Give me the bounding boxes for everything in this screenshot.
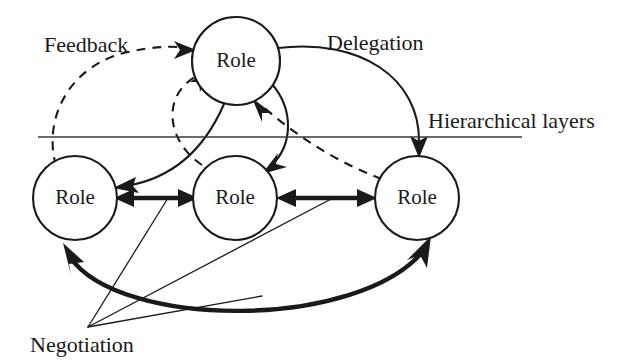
- label-feedback: Feedback: [44, 32, 128, 57]
- edge-negotiation-mid-right: [276, 189, 377, 207]
- role-bottom-right-label: Role: [397, 185, 437, 209]
- node-role-bottom-right[interactable]: Role: [375, 156, 459, 240]
- label-hierarchical-layers: Hierarchical layers: [428, 108, 595, 133]
- edge-negotiation-left-right: [63, 236, 431, 311]
- diagram-canvas: Role Role Role Role Feedback Delegation …: [0, 0, 625, 364]
- label-delegation: Delegation: [327, 30, 424, 55]
- delegation-top-mid-path: [271, 84, 288, 166]
- role-bottom-mid-label: Role: [215, 185, 255, 209]
- node-role-bottom-mid[interactable]: Role: [193, 156, 277, 240]
- negotiation-arc-path: [70, 250, 424, 311]
- label-negotiation: Negotiation: [30, 332, 134, 357]
- feedback-mid-top-path: [172, 74, 202, 165]
- edge-negotiation-left-mid: [114, 189, 198, 207]
- delegation-top-right-path: [278, 46, 419, 142]
- node-role-top[interactable]: Role: [192, 17, 280, 105]
- node-role-bottom-left[interactable]: Role: [33, 156, 117, 240]
- role-interaction-diagram: Role Role Role Role Feedback Delegation …: [0, 0, 625, 364]
- edge-delegation-top-to-right: [278, 46, 428, 158]
- role-top-label: Role: [216, 48, 256, 72]
- edge-delegation-top-to-mid: [262, 84, 288, 174]
- feedback-left-top-path: [53, 47, 186, 166]
- negotiation-mid-right-arrowhead-left: [276, 189, 296, 207]
- role-bottom-left-label: Role: [55, 185, 95, 209]
